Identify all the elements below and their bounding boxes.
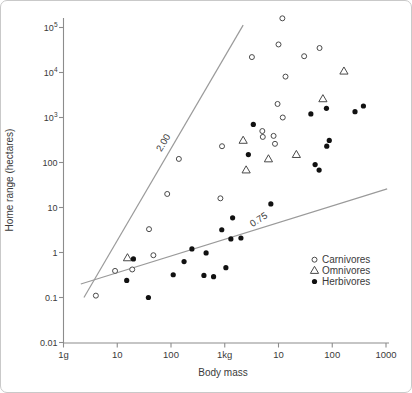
y-tick-label: 100 [42, 158, 57, 168]
y-tick-label: 0.1 [45, 293, 58, 303]
data-point-omnivores [242, 166, 250, 173]
data-point-herbivores [324, 106, 329, 111]
data-point-herbivores [146, 295, 151, 300]
data-point-carnivores [260, 129, 265, 134]
data-point-omnivores [292, 150, 300, 157]
legend-marker-carnivores [312, 257, 317, 262]
data-point-herbivores [181, 259, 186, 264]
x-tick-label: 1kg [217, 349, 232, 360]
data-point-herbivores [228, 236, 233, 241]
legend-label-herbivores: Herbivores [322, 276, 370, 287]
data-point-herbivores [327, 138, 332, 143]
y-tick-label: 0.01 [40, 338, 58, 348]
data-point-carnivores [260, 134, 265, 139]
data-point-omnivores [340, 67, 348, 74]
data-point-herbivores [230, 215, 235, 220]
data-point-carnivores [249, 55, 254, 60]
x-tick-label: 1000 [375, 349, 396, 360]
data-point-herbivores [352, 109, 357, 114]
legend-marker-herbivores [312, 279, 317, 284]
x-tick-label: 10 [112, 349, 123, 360]
data-point-herbivores [131, 256, 136, 261]
data-point-herbivores [313, 162, 318, 167]
x-axis-title: Body mass [198, 367, 247, 378]
data-point-carnivores [130, 267, 135, 272]
data-point-herbivores [308, 111, 313, 116]
data-point-herbivores [189, 246, 194, 251]
data-point-herbivores [251, 122, 256, 127]
data-point-carnivores [275, 101, 280, 106]
data-point-omnivores [319, 95, 327, 102]
data-point-herbivores [246, 152, 251, 157]
data-point-carnivores [271, 133, 276, 138]
data-point-carnivores [113, 268, 118, 273]
data-point-carnivores [280, 115, 285, 120]
data-point-herbivores [204, 250, 209, 255]
data-point-carnivores [280, 16, 285, 21]
data-point-carnivores [283, 74, 288, 79]
legend-label-carnivores: Carnivores [322, 254, 370, 265]
x-tick-label: 100 [324, 349, 340, 360]
x-tick-label: 1g [58, 349, 69, 360]
data-point-carnivores [218, 196, 223, 201]
data-point-carnivores [317, 46, 322, 51]
legend-label-omnivores: Omnivores [322, 265, 370, 276]
scatter-plot: 1051041031001010.10.011g101001kg10100100… [0, 0, 412, 393]
x-tick-label: 10 [273, 349, 284, 360]
guide-line-2.00 [84, 25, 243, 297]
data-point-carnivores [272, 141, 277, 146]
y-tick-label: 103 [44, 111, 58, 123]
data-point-omnivores [239, 136, 247, 143]
data-point-carnivores [165, 191, 170, 196]
legend-marker-omnivores [310, 266, 318, 273]
y-axis-title: Home range (hectares) [4, 129, 15, 232]
data-point-herbivores [201, 273, 206, 278]
y-tick-label: 10 [47, 203, 57, 213]
data-point-herbivores [268, 201, 273, 206]
data-point-carnivores [302, 54, 307, 59]
data-point-carnivores [220, 144, 225, 149]
data-point-herbivores [124, 278, 129, 283]
data-point-carnivores [276, 42, 281, 47]
legend: CarnivoresOmnivoresHerbivores [310, 254, 370, 287]
data-point-herbivores [324, 144, 329, 149]
data-point-carnivores [93, 293, 98, 298]
data-point-carnivores [147, 227, 152, 232]
data-point-herbivores [171, 272, 176, 277]
data-point-herbivores [317, 167, 322, 172]
data-point-herbivores [361, 103, 366, 108]
data-point-carnivores [176, 156, 181, 161]
data-point-carnivores [151, 253, 156, 258]
y-tick-label: 104 [44, 66, 58, 78]
data-point-herbivores [223, 265, 228, 270]
y-tick-label: 1 [52, 248, 57, 258]
y-tick-label: 105 [44, 21, 58, 33]
figure: 1051041031001010.10.011g101001kg10100100… [0, 0, 412, 393]
data-point-omnivores [123, 254, 131, 261]
data-point-omnivores [264, 155, 272, 162]
data-point-herbivores [219, 227, 224, 232]
data-point-herbivores [211, 274, 216, 279]
data-point-herbivores [238, 235, 243, 240]
x-tick-label: 100 [163, 349, 179, 360]
